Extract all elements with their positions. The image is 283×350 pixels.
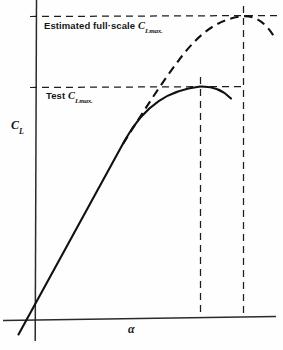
estimated-clmax-label: Estimated full·scale CLmax.	[44, 20, 163, 34]
clmax-subscript-test: Lmax.	[75, 97, 92, 105]
cl-symbol-test: C	[68, 90, 75, 101]
cl-symbol-estimated: C	[138, 20, 145, 31]
y-axis-label: CL	[11, 118, 24, 134]
clmax-subscript-estimated: Lmax.	[145, 27, 162, 35]
x-axis-label: α	[128, 322, 135, 337]
estimated-clmax-reference-line	[30, 16, 279, 17]
chart-canvas	[0, 0, 283, 350]
test-cl-curve	[19, 86, 232, 334]
chart-figure: Estimated full·scale CLmax. Test CLmax. …	[0, 0, 283, 350]
x-axis-line	[3, 317, 276, 321]
y-axis-symbol: C	[11, 118, 19, 132]
y-axis-subscript: L	[19, 127, 24, 136]
estimated-cl-curve	[123, 16, 275, 144]
test-clmax-prefix: Test	[46, 90, 68, 101]
test-clmax-label: Test CLmax.	[46, 90, 93, 104]
y-axis-line	[35, 0, 36, 341]
estimated-clmax-prefix: Estimated full·scale	[44, 20, 138, 31]
